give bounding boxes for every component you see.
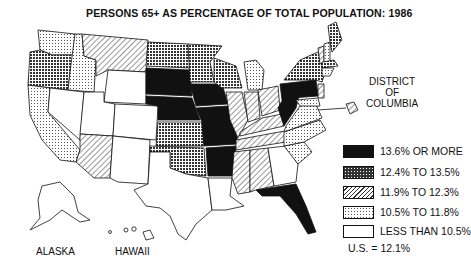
state-or: [28, 50, 75, 90]
dc-label-line: OF: [366, 87, 418, 98]
swatch-dots: [343, 206, 374, 219]
legend-label: 13.6% OR MORE: [380, 145, 463, 157]
state-md: [296, 98, 320, 106]
state-ms: [232, 150, 250, 194]
state-wy: [104, 70, 146, 104]
state-fl: [256, 184, 316, 234]
state-nj: [318, 84, 324, 98]
legend-item: 11.9% TO 12.3%: [343, 185, 459, 199]
legend-label: LESS THAN 10.5%: [380, 225, 471, 237]
state-ak: [30, 182, 90, 230]
state-pa: [280, 80, 318, 100]
dc-label: DISTRICT OF COLUMBIA: [366, 76, 418, 109]
dc-inset: [346, 102, 358, 114]
state-ct: [322, 68, 334, 76]
legend-label: 10.5% TO 11.8%: [380, 206, 459, 218]
legend-item: LESS THAN 10.5%: [343, 224, 471, 238]
state-az: [76, 134, 113, 178]
state-co: [113, 104, 158, 140]
legend-item: 10.5% TO 11.8%: [343, 205, 459, 219]
legend-label: 12.4% TO 13.5%: [380, 166, 460, 178]
legend-item: 13.6% OR MORE: [343, 144, 463, 158]
swatch-solid-black: [343, 145, 374, 158]
hawaii-label: HAWAII: [115, 246, 150, 257]
state-ma: [322, 60, 338, 68]
swatch-crosshatch: [343, 166, 374, 179]
swatch-diagonal: [343, 186, 374, 199]
state-mi: [244, 60, 264, 90]
state-nm: [110, 136, 150, 184]
state-oh: [258, 86, 280, 116]
legend-item: 12.4% TO 13.5%: [343, 165, 460, 179]
legend-label: 11.9% TO 12.3%: [380, 186, 459, 198]
dc-label-line: DISTRICT: [366, 76, 418, 87]
state-hi: [109, 227, 155, 240]
dc-label-line: COLUMBIA: [366, 98, 418, 109]
alaska-label: ALASKA: [36, 246, 75, 257]
state-nh: [324, 42, 330, 62]
dc-leader-line: [318, 108, 346, 110]
state-wi: [214, 58, 242, 88]
state-sd: [146, 68, 192, 96]
us-average-note: U.S. = 12.1%: [348, 242, 410, 254]
swatch-white: [343, 225, 374, 238]
state-ar: [206, 146, 236, 176]
state-ks: [156, 122, 204, 146]
state-nd: [146, 42, 190, 68]
